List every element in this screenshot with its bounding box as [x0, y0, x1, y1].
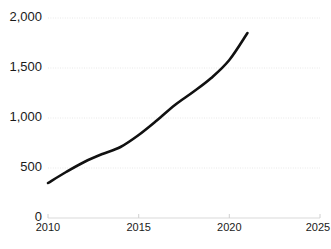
y-axis-label-1000: 1,000	[9, 109, 42, 124]
x-axis-label-2020: 2020	[217, 221, 241, 233]
y-axis-label-1500: 1,500	[9, 59, 42, 74]
y-axis-label-500: 500	[20, 159, 42, 174]
x-axis-tick-labels: 2010 2015 2020 2025	[36, 221, 330, 233]
x-axis-label-2025: 2025	[306, 221, 330, 233]
chart-canvas: 2,000 1,500 1,000 500 0 2010 2015 2020 2…	[0, 0, 331, 249]
x-axis-label-2010: 2010	[36, 221, 60, 233]
gridlines	[48, 18, 320, 168]
y-axis-tick-labels: 2,000 1,500 1,000 500 0	[9, 9, 42, 224]
x-axis	[48, 214, 320, 218]
line-chart: 2,000 1,500 1,000 500 0 2010 2015 2020 2…	[0, 0, 331, 249]
x-axis-label-2015: 2015	[126, 221, 150, 233]
y-axis-label-2000: 2,000	[9, 9, 42, 24]
data-series-line	[48, 33, 247, 183]
